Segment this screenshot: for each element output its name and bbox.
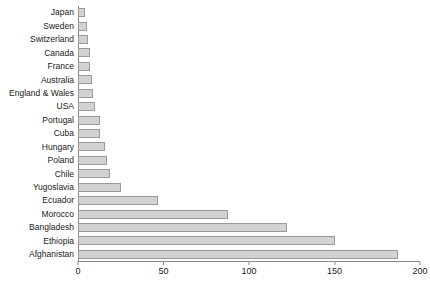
category-label: England & Wales — [9, 89, 74, 98]
bar — [78, 102, 95, 111]
category-label: Chile — [55, 170, 74, 179]
x-tick-label: 200 — [412, 267, 427, 276]
bar-row: Sweden — [78, 19, 420, 32]
bar-row: Canada — [78, 46, 420, 59]
bar — [78, 22, 87, 31]
x-tick: 150 — [327, 261, 342, 276]
bar-chart: JapanSwedenSwitzerlandCanadaFranceAustra… — [0, 0, 430, 284]
bar — [78, 250, 398, 259]
bar — [78, 35, 88, 44]
bar — [78, 129, 100, 138]
bar-row: France — [78, 60, 420, 73]
bar-row: Yugoslavia — [78, 180, 420, 193]
bar-row: Bangladesh — [78, 221, 420, 234]
bar — [78, 223, 287, 232]
x-tick: 200 — [412, 261, 427, 276]
bar — [78, 196, 158, 205]
bar-row: Portugal — [78, 113, 420, 126]
bar — [78, 116, 100, 125]
bar-row: Morocco — [78, 207, 420, 220]
bar — [78, 236, 335, 245]
x-tick-mark — [334, 261, 335, 265]
category-label: Switzerland — [30, 35, 74, 44]
category-label: Australia — [41, 76, 74, 85]
bar — [78, 210, 228, 219]
category-label: Yugoslavia — [33, 183, 74, 192]
x-tick-mark — [420, 261, 421, 265]
bar — [78, 89, 93, 98]
bar-row: USA — [78, 100, 420, 113]
bar — [78, 142, 105, 151]
bar — [78, 169, 110, 178]
category-label: Japan — [51, 8, 74, 17]
bar-row: England & Wales — [78, 87, 420, 100]
bar-row: Afghanistan — [78, 248, 420, 261]
bar-row: Australia — [78, 73, 420, 86]
category-label: Portugal — [42, 116, 74, 125]
category-label: Ethiopia — [43, 237, 74, 246]
bar — [78, 48, 90, 57]
x-tick-label: 50 — [158, 267, 168, 276]
category-label: Poland — [48, 156, 74, 165]
x-tick-mark — [77, 261, 78, 265]
bar-row: Ethiopia — [78, 234, 420, 247]
category-label: Bangladesh — [29, 223, 74, 232]
x-tick-mark — [163, 261, 164, 265]
x-tick-label: 100 — [241, 267, 256, 276]
bar-row: Cuba — [78, 127, 420, 140]
category-label: Ecuador — [42, 196, 74, 205]
bar — [78, 8, 85, 17]
x-tick: 0 — [75, 261, 80, 276]
x-tick: 50 — [158, 261, 168, 276]
category-label: Afghanistan — [29, 250, 74, 259]
bar-row: Japan — [78, 6, 420, 19]
bar-row: Chile — [78, 167, 420, 180]
x-tick-label: 0 — [75, 267, 80, 276]
x-tick: 100 — [241, 261, 256, 276]
x-tick-label: 150 — [327, 267, 342, 276]
bar-row: Poland — [78, 154, 420, 167]
bar-row: Switzerland — [78, 33, 420, 46]
bar — [78, 62, 90, 71]
bar — [78, 156, 107, 165]
bar — [78, 183, 121, 192]
category-label: Morocco — [41, 210, 74, 219]
category-label: Cuba — [54, 129, 74, 138]
x-tick-mark — [249, 261, 250, 265]
bar-row: Hungary — [78, 140, 420, 153]
category-label: France — [48, 62, 74, 71]
category-label: Sweden — [43, 22, 74, 31]
x-axis-ticks: 050100150200 — [78, 261, 420, 284]
bar-row: Ecuador — [78, 194, 420, 207]
category-label: USA — [57, 102, 74, 111]
bar — [78, 75, 92, 84]
category-label: Hungary — [42, 143, 74, 152]
plot-area: JapanSwedenSwitzerlandCanadaFranceAustra… — [78, 6, 420, 261]
category-label: Canada — [44, 49, 74, 58]
bar-rows: JapanSwedenSwitzerlandCanadaFranceAustra… — [78, 6, 420, 261]
